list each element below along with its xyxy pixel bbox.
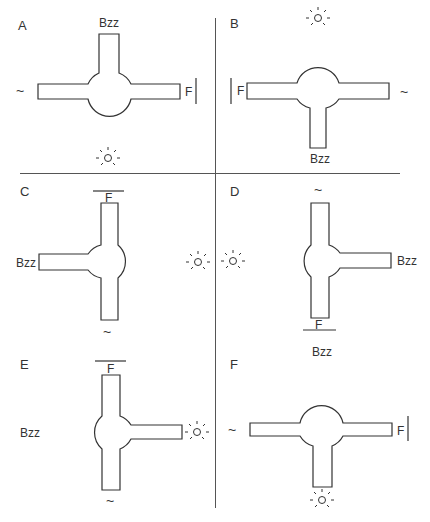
maze-d xyxy=(304,203,391,318)
light-icon-a xyxy=(96,147,120,165)
food-label-e: F xyxy=(107,362,114,376)
food-label-a: F xyxy=(185,85,192,99)
bzz-label-a: Bzz xyxy=(99,16,119,30)
bzz-label-f: Bzz xyxy=(312,345,332,359)
panel-letter-a: A xyxy=(18,18,27,33)
light-icon-c xyxy=(186,251,210,269)
bzz-label-d: Bzz xyxy=(397,254,417,268)
odor-icon-a: ~ xyxy=(16,84,24,98)
food-label-b: F xyxy=(237,84,244,98)
food-label-d: F xyxy=(315,318,322,332)
bzz-label-e: Bzz xyxy=(20,426,40,440)
maze-e xyxy=(95,375,182,490)
maze-c xyxy=(39,203,125,320)
light-icon-e xyxy=(185,421,209,439)
panel-letter-c: C xyxy=(20,184,29,199)
light-icon-b xyxy=(306,7,330,25)
odor-icon-c: ~ xyxy=(103,325,111,339)
odor-icon-d: ~ xyxy=(314,183,322,197)
food-label-f: F xyxy=(397,424,404,438)
odor-icon-e: ~ xyxy=(106,494,114,508)
bzz-label-c: Bzz xyxy=(16,256,36,270)
light-icon-f xyxy=(310,489,334,507)
light-icon-d xyxy=(221,250,245,268)
panel-letter-f: F xyxy=(230,357,238,372)
panel-letter-d: D xyxy=(230,184,239,199)
maze-diagrams xyxy=(0,0,430,522)
maze-b xyxy=(247,68,389,148)
odor-icon-b: ~ xyxy=(400,85,408,99)
maze-a xyxy=(38,34,180,116)
food-label-c: F xyxy=(105,191,112,205)
panel-letter-b: B xyxy=(230,16,239,31)
bzz-label-b: Bzz xyxy=(310,152,330,166)
maze-f xyxy=(250,406,392,487)
odor-icon-f: ~ xyxy=(228,423,236,437)
panel-letter-e: E xyxy=(20,357,29,372)
